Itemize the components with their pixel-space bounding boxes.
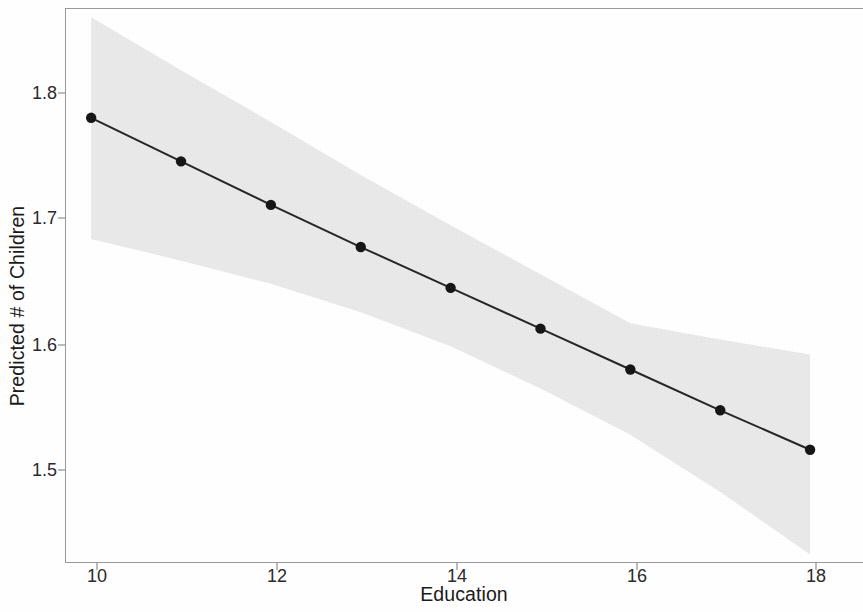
plot-panel [65,8,863,563]
x-axis-title: Education [65,583,863,606]
y-tick-label: 1.6 [15,335,57,356]
data-point [535,323,545,333]
y-tick-marks [58,93,65,470]
data-point [176,156,186,166]
y-tick-label: 1.8 [15,83,57,104]
data-point [266,200,276,210]
data-point [805,445,815,455]
plot-area [66,9,863,563]
chart-figure: Predicted # of Children 1.8 1.7 1.6 1.5 … [0,0,863,612]
y-tick-label: 1.5 [15,460,57,481]
data-point [715,405,725,415]
data-point [445,283,455,293]
y-tick-label: 1.7 [15,208,57,229]
data-point [86,113,96,123]
y-axis-tick-labels: 1.8 1.7 1.6 1.5 [0,0,57,612]
data-point [356,242,366,252]
data-point [625,364,635,374]
